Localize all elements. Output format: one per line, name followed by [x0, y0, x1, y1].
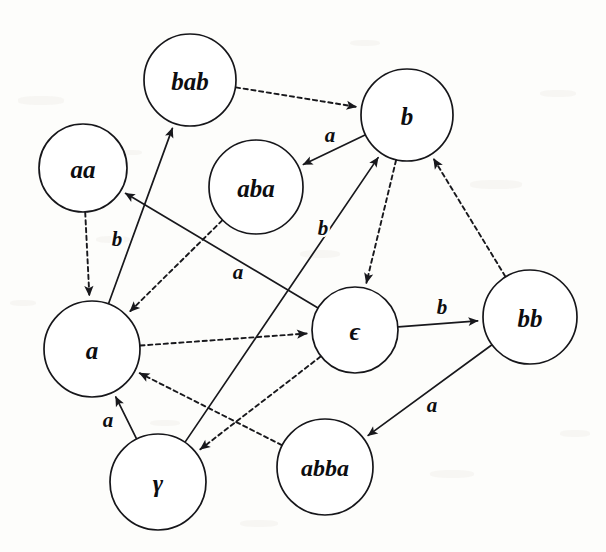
edge-aba-to-a — [130, 220, 222, 311]
edge-label-4: b — [437, 295, 448, 319]
node-bb[interactable]: bb — [483, 270, 577, 364]
node-aa[interactable]: aa — [39, 124, 127, 212]
edge-label-6: a — [427, 393, 438, 417]
node-abba[interactable]: abba — [277, 419, 373, 515]
edge-bb-to-b — [434, 159, 506, 276]
node-gamma[interactable]: γ — [110, 434, 206, 530]
edge-eps-to-bb — [398, 321, 477, 327]
node-label-bab: bab — [171, 68, 209, 95]
graph-canvas: aabbaabbbbaaaa babbaaabaaϵbbγabba — [0, 0, 606, 552]
edge-b-to-eps — [366, 160, 396, 283]
edge-aa-to-a — [85, 212, 89, 295]
node-label-bb: bb — [518, 305, 543, 332]
node-bab[interactable]: bab — [144, 34, 236, 126]
node-label-eps: ϵ — [350, 318, 361, 345]
edge-label-0: a — [325, 123, 336, 147]
edge-gamma-to-a — [116, 397, 137, 439]
edge-label-2: a — [233, 260, 244, 284]
node-label-aa: aa — [71, 156, 96, 183]
edge-bab-to-b — [236, 87, 356, 106]
edge-label-5: a — [103, 408, 114, 432]
edge-a-to-eps — [140, 333, 306, 345]
edge-label-3: b — [318, 216, 329, 240]
node-label-abba: abba — [301, 455, 349, 481]
node-aba[interactable]: aba — [209, 140, 303, 234]
graph-svg: aabbaabbbbaaaa babbaaabaaϵbbγabba — [0, 0, 606, 552]
node-label-a: a — [86, 337, 99, 364]
node-label-aba: aba — [237, 175, 275, 202]
node-b[interactable]: b — [361, 69, 453, 161]
edge-label-1: b — [112, 227, 123, 251]
node-label-b: b — [401, 103, 414, 130]
nodes-layer: babbaaabaaϵbbγabba — [39, 34, 577, 530]
node-label-gamma: γ — [153, 470, 164, 497]
node-eps[interactable]: ϵ — [312, 287, 398, 373]
node-a[interactable]: a — [44, 301, 140, 397]
